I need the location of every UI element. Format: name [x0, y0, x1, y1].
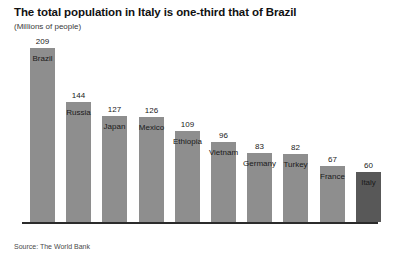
bar[interactable] — [102, 116, 127, 222]
bar-value-label: 144 — [57, 91, 100, 100]
bar-value-label: 126 — [130, 106, 173, 115]
bar-group: 82Turkey — [283, 154, 308, 222]
source-note: Source: The World Bank — [14, 243, 90, 250]
bar[interactable] — [139, 117, 164, 222]
bar-group: 209Brazil — [30, 48, 55, 222]
bar[interactable] — [66, 102, 91, 222]
bar-group: 67France — [320, 166, 345, 222]
bar-value-label: 109 — [166, 120, 209, 129]
bar-group: 109Ethiopia — [175, 131, 200, 222]
bar-group: 96Vietnam — [211, 142, 236, 222]
bar-group: 60Italy — [356, 172, 381, 222]
bar[interactable] — [30, 48, 55, 222]
bar-value-label: 60 — [347, 161, 390, 170]
bar-group: 127Japan — [102, 116, 127, 222]
bar-group: 144Russia — [66, 102, 91, 222]
plot-area: 209Brazil144Russia127Japan126Mexico109Et… — [0, 0, 397, 264]
bar-group: 83Germany — [247, 153, 272, 222]
bar-value-label: 96 — [202, 131, 245, 140]
bar-chart-figure: The total population in Italy is one-thi… — [0, 0, 397, 264]
x-axis-tick-label: Italy — [345, 178, 392, 187]
x-axis-tick-label: Brazil — [19, 54, 66, 63]
bar-value-label: 209 — [21, 37, 64, 46]
bar-value-label: 82 — [274, 143, 317, 152]
x-axis-line — [22, 222, 378, 224]
bar-group: 126Mexico — [139, 117, 164, 222]
